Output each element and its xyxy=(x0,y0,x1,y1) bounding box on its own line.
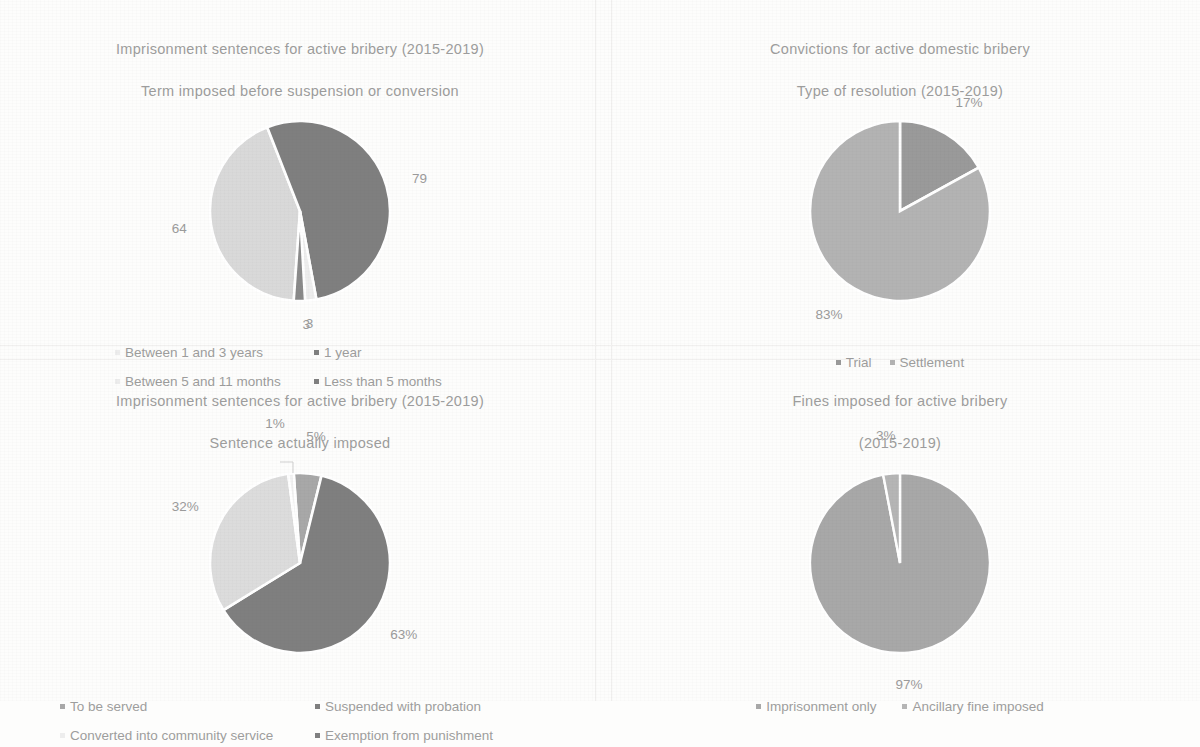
pie-slice-label: 64 xyxy=(172,221,188,236)
legend-item-label: Imprisonment only xyxy=(766,695,876,718)
pie-area: 17%83% xyxy=(690,106,1110,321)
legend-item-label: Suspended with probation xyxy=(325,695,481,718)
legend-item[interactable]: Ancillary fine imposed xyxy=(902,695,1043,718)
chart-panel-fines-imposed: Fines imposed for active bribery (2015-2… xyxy=(600,352,1200,701)
legend-item[interactable]: Imprisonment only xyxy=(756,695,876,718)
legend-item-label: To be served xyxy=(70,695,147,718)
legend-item[interactable]: Converted into community service xyxy=(60,724,315,747)
pie-chart-sentence-imposed: 5%63%32%1% xyxy=(130,458,470,673)
pie-stage: 97%3% xyxy=(730,458,1070,673)
legend-item-label: Ancillary fine imposed xyxy=(912,695,1043,718)
pie-chart-imprisonment-term: 647933 xyxy=(130,106,470,321)
pie-slice-label: 83% xyxy=(815,307,842,322)
pie-slice-label: 32% xyxy=(172,499,199,514)
legend-item[interactable]: Suspended with probation xyxy=(315,695,540,718)
label-leader-line xyxy=(280,462,293,473)
legend-marker-icon xyxy=(315,704,320,709)
legend-item-label: Exemption from punishment xyxy=(325,724,493,747)
chart-title-line1: Convictions for active domestic bribery xyxy=(770,41,1030,57)
pie-slice-label: 1% xyxy=(265,416,285,431)
chart-panel-sentence-imposed: Imprisonment sentences for active briber… xyxy=(0,352,600,701)
pie-stage: 647933 xyxy=(130,106,470,321)
chart-panel-imprisonment-term: Imprisonment sentences for active briber… xyxy=(0,0,600,352)
chart-title-line2: (2015-2019) xyxy=(859,435,941,451)
chart-title: Imprisonment sentences for active briber… xyxy=(116,370,484,454)
legend-marker-icon xyxy=(756,704,761,709)
legend-item-label: Converted into community service xyxy=(70,724,273,747)
chart-panel-convictions-resolution: Convictions for active domestic bribery … xyxy=(600,0,1200,352)
legend-marker-icon xyxy=(60,704,65,709)
chart-legend: To be servedSuspended with probationConv… xyxy=(60,695,540,747)
pie-stage: 17%83% xyxy=(730,106,1070,321)
pie-area: 647933 xyxy=(90,106,510,321)
pie-slice-label: 63% xyxy=(390,627,417,642)
chart-title-line2: Term imposed before suspension or conver… xyxy=(141,83,459,99)
pie-area: 97%3% xyxy=(690,458,1110,673)
pie-area: 5%63%32%1% xyxy=(90,458,510,673)
chart-title: Fines imposed for active bribery (2015-2… xyxy=(792,370,1007,454)
pie-slice-label: 79 xyxy=(412,171,427,186)
pie-slice-label: 97% xyxy=(895,677,922,692)
pie-slice-label: 3% xyxy=(876,428,896,443)
chart-title-line1: Imprisonment sentences for active briber… xyxy=(116,41,484,57)
legend-marker-icon xyxy=(902,704,907,709)
pie-chart-fines-imposed: 97%3% xyxy=(730,458,1070,673)
chart-title: Convictions for active domestic bribery … xyxy=(770,18,1030,102)
chart-title: Imprisonment sentences for active briber… xyxy=(116,18,484,102)
pie-slice-label: 17% xyxy=(955,95,982,110)
legend-marker-icon xyxy=(60,733,65,738)
chart-title-line2: Sentence actually imposed xyxy=(210,435,391,451)
pie-slice-label: 5% xyxy=(306,429,326,444)
chart-legend: Imprisonment onlyAncillary fine imposed xyxy=(756,695,1044,718)
chart-title-line1: Fines imposed for active bribery xyxy=(792,393,1007,409)
legend-marker-icon xyxy=(315,733,320,738)
pie-chart-convictions-resolution: 17%83% xyxy=(730,106,1070,321)
legend-item[interactable]: To be served xyxy=(60,695,315,718)
pie-stage: 5%63%32%1% xyxy=(130,458,470,673)
pie-slice-label: 3 xyxy=(302,317,310,332)
chart-title-line1: Imprisonment sentences for active briber… xyxy=(116,393,484,409)
legend-item[interactable]: Exemption from punishment xyxy=(315,724,540,747)
